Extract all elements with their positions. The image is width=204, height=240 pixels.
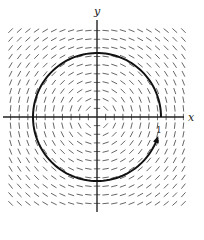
slope-segment <box>44 131 46 137</box>
slope-segment <box>85 177 91 178</box>
slope-segment <box>26 157 29 162</box>
slope-segment <box>43 193 48 197</box>
slope-segment <box>77 194 83 195</box>
slope-segment <box>112 132 117 137</box>
slope-segment <box>10 105 11 111</box>
slope-segment <box>60 193 66 196</box>
slope-segment <box>102 30 108 31</box>
slope-segment <box>59 202 65 204</box>
slope-segment <box>43 54 48 58</box>
slope-segment <box>155 184 160 188</box>
slope-segment <box>44 140 47 146</box>
slope-segment <box>18 80 21 86</box>
slope-segment <box>111 73 117 75</box>
slope-segment <box>77 89 82 93</box>
slope-segment <box>174 88 176 94</box>
slope-segment <box>78 123 81 129</box>
slope-segment <box>77 97 82 102</box>
slope-segment <box>173 184 177 189</box>
slope-segment <box>17 193 22 198</box>
slope-segment <box>165 88 167 94</box>
slope-segment <box>138 63 143 67</box>
slope-segment <box>130 131 133 137</box>
slope-segment <box>26 149 29 155</box>
slope-segment <box>19 97 20 103</box>
slope-segment <box>25 201 30 205</box>
slope-segment <box>157 105 158 111</box>
slope-segment <box>77 30 83 31</box>
slope-segment <box>181 28 186 33</box>
slope-segment <box>147 71 151 76</box>
slope-segment <box>43 46 48 50</box>
slope-segment <box>68 47 74 49</box>
slope-segment <box>34 184 39 188</box>
slope-segment <box>181 192 185 197</box>
slope-segment <box>26 166 30 171</box>
slope-segment <box>174 97 175 103</box>
slope-segment <box>155 175 160 180</box>
slope-segment <box>26 80 29 86</box>
slope-segment <box>51 63 56 67</box>
slope-segment <box>77 47 83 49</box>
slope-segment <box>8 37 12 42</box>
slope-segment <box>130 140 134 145</box>
slope-segment <box>77 39 83 40</box>
slope-segment <box>51 176 56 180</box>
slope-segment <box>43 184 48 188</box>
slope-segment <box>129 149 134 154</box>
slope-segment <box>17 37 22 42</box>
slope-segment <box>36 122 37 128</box>
slope-segment <box>139 140 142 145</box>
slope-segment <box>183 97 184 103</box>
slope-segment <box>26 54 30 59</box>
slope-segment <box>86 98 92 101</box>
slope-segment <box>120 167 126 170</box>
slope-segment <box>129 158 134 162</box>
slope-segment <box>86 133 92 136</box>
slope-segment <box>60 185 66 188</box>
slope-segment <box>34 166 38 171</box>
slope-segment <box>27 97 29 103</box>
slope-segment <box>77 150 83 153</box>
slope-segment <box>131 105 133 111</box>
slope-segment <box>45 122 46 128</box>
slope-segment <box>35 158 39 163</box>
slope-segment <box>27 105 28 111</box>
slope-segment <box>27 88 29 94</box>
slope-segment <box>53 123 54 129</box>
slope-segment <box>61 140 65 145</box>
slope-segment <box>137 184 142 187</box>
slope-segment <box>112 141 117 145</box>
annotation-label-1: 1 <box>156 125 162 135</box>
slope-segment <box>155 29 160 33</box>
slope-segment <box>138 80 142 85</box>
slope-segment <box>138 55 143 59</box>
slope-segment <box>9 157 12 163</box>
slope-segment <box>52 140 55 145</box>
slope-segment <box>60 158 65 162</box>
slope-segment <box>85 203 91 204</box>
slope-segment <box>69 89 74 94</box>
slope-segment <box>173 37 178 42</box>
slope-segment <box>18 157 21 163</box>
slope-segment <box>85 186 91 187</box>
slope-segment <box>19 131 20 137</box>
slope-segment <box>139 88 142 93</box>
slope-segment <box>148 105 149 111</box>
slope-segment <box>9 166 12 171</box>
slope-segment <box>9 149 11 155</box>
slope-segment <box>111 168 117 170</box>
slope-segment <box>60 149 65 154</box>
slope-segment <box>164 193 169 197</box>
x-axis-label: x <box>188 111 195 124</box>
slope-segment <box>102 39 108 40</box>
slope-segment <box>183 105 184 111</box>
slope-segment <box>68 167 74 170</box>
slope-segment <box>111 39 117 40</box>
slope-segment <box>34 37 39 41</box>
slope-segment <box>146 202 151 205</box>
slope-segment <box>26 175 30 180</box>
slope-segment <box>9 62 12 67</box>
slope-segment <box>17 63 21 68</box>
slope-segment <box>102 186 108 187</box>
